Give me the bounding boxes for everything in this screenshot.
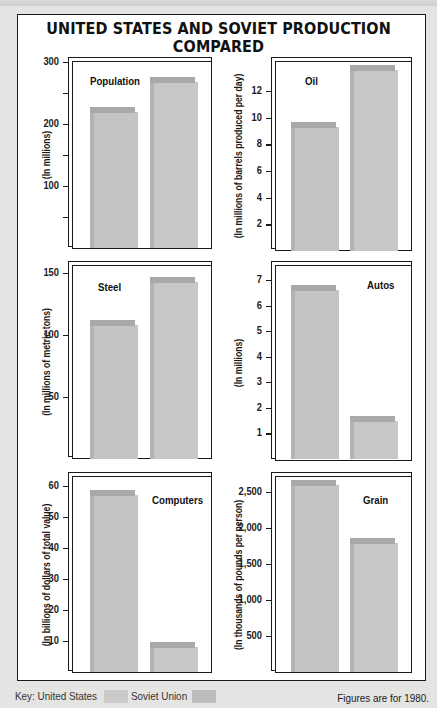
bar-cap <box>350 538 395 544</box>
y-tick-label: 100 <box>25 179 59 191</box>
bar-cap <box>90 490 135 496</box>
legend-key-prefix: Key: <box>15 690 35 702</box>
y-tick <box>63 486 69 487</box>
panel-label-computers: Computers <box>152 494 203 506</box>
y-tick-label: 300 <box>25 55 59 67</box>
y-tick <box>63 124 69 125</box>
bar-side <box>90 112 94 248</box>
bar-side <box>150 82 154 248</box>
bar-cap <box>150 277 195 283</box>
bar-united-states <box>291 485 339 672</box>
bar-united-states <box>90 112 138 248</box>
bar-soviet-union <box>350 543 398 672</box>
y-tick <box>266 91 272 92</box>
panel-label-grain: Grain <box>363 494 388 506</box>
y-tick <box>266 171 272 172</box>
y-tick <box>266 433 272 434</box>
y-tick-label: 7 <box>228 273 262 285</box>
chart-title: UNITED STATES AND SOVIET PRODUCTION COMP… <box>15 20 421 56</box>
y-axis-title: (In billions of dollars of total value) <box>40 503 52 646</box>
bar-side <box>350 70 354 251</box>
bar-cap <box>350 65 395 71</box>
y-tick-label: 5 <box>228 324 262 336</box>
bar-soviet-union <box>350 70 398 251</box>
bar-cap <box>90 107 135 113</box>
bar-side <box>350 421 354 459</box>
bar-cap <box>291 122 336 128</box>
bar-soviet-union <box>150 282 198 459</box>
bar-side <box>291 485 295 672</box>
panel-label-population: Population <box>90 75 140 87</box>
bar-soviet-union <box>350 421 398 459</box>
top-strip <box>0 0 437 6</box>
y-tick <box>63 397 69 398</box>
legend-ussr-label: Soviet Union <box>131 690 187 702</box>
y-tick <box>266 144 272 145</box>
bar-soviet-union <box>150 647 198 672</box>
y-tick <box>266 408 272 409</box>
legend-key-label: Key: United States <box>15 690 97 702</box>
y-tick <box>63 610 69 611</box>
y-tick <box>63 273 69 274</box>
y-tick <box>266 528 272 529</box>
y-tick <box>266 280 272 281</box>
bar-side <box>150 647 154 672</box>
y-axis-title: (In millions of barrels produced per day… <box>232 74 244 239</box>
y-axis-title: (In thousands of pounds per person) <box>232 499 244 649</box>
bar-side <box>291 127 295 251</box>
y-tick <box>63 641 69 642</box>
bar-cap <box>90 320 135 326</box>
y-tick <box>63 186 69 187</box>
legend-us-label: United States <box>38 690 97 702</box>
y-tick <box>266 357 272 358</box>
y-tick-label: 2,500 <box>228 485 262 497</box>
y-tick <box>266 198 272 199</box>
y-tick <box>266 492 272 493</box>
y-tick <box>63 62 69 63</box>
bar-soviet-union <box>150 82 198 248</box>
y-tick <box>266 118 272 119</box>
y-tick-label: 60 <box>25 479 59 491</box>
panel-label-steel: Steel <box>98 281 121 293</box>
y-tick <box>63 548 69 549</box>
y-axis-title: (In millions) <box>232 339 244 387</box>
legend-us-swatch <box>104 690 128 703</box>
bar-united-states <box>90 325 138 459</box>
y-tick-label: 2 <box>228 401 262 413</box>
y-minor-tick <box>63 155 69 156</box>
panel-label-autos: Autos <box>367 279 394 291</box>
bar-cap <box>291 480 336 486</box>
panel-label-oil: Oil <box>305 75 318 87</box>
y-tick <box>266 382 272 383</box>
bar-united-states <box>291 290 339 459</box>
y-minor-tick <box>63 217 69 218</box>
y-tick <box>266 564 272 565</box>
legend-ussr-swatch <box>192 690 216 703</box>
y-tick <box>63 335 69 336</box>
bar-cap <box>150 77 195 83</box>
bar-cap <box>150 642 195 648</box>
bar-united-states <box>291 127 339 251</box>
y-tick-label: 200 <box>25 117 59 129</box>
y-tick <box>266 224 272 225</box>
y-tick-label: 150 <box>25 266 59 278</box>
footnote: Figures are for 1980. <box>337 692 429 704</box>
y-tick-label: 6 <box>228 299 262 311</box>
bar-side <box>291 290 295 459</box>
y-axis-title: (In millions of metric tons) <box>40 308 52 416</box>
bar-side <box>90 495 94 672</box>
y-minor-tick <box>63 93 69 94</box>
y-tick <box>63 517 69 518</box>
bar-side <box>350 543 354 672</box>
y-tick <box>266 636 272 637</box>
y-tick <box>63 579 69 580</box>
bar-cap <box>291 285 336 291</box>
bar-cap <box>350 416 395 422</box>
y-axis-title: (In millions) <box>40 131 52 179</box>
y-tick <box>266 306 272 307</box>
bar-side <box>90 325 94 459</box>
bar-united-states <box>90 495 138 672</box>
bar-side <box>150 282 154 459</box>
y-tick <box>266 331 272 332</box>
y-tick-label: 1 <box>228 426 262 438</box>
